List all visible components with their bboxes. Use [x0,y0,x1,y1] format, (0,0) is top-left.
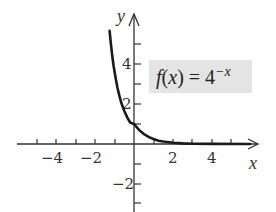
y-tick-label-4: 4 [122,55,132,73]
x-tick-label-4: 4 [207,149,217,167]
function-graph: f(x) = 4−x −4 −2 2 4 4 2 −2 [0,0,276,212]
x-axis-label: x [248,153,257,173]
y-tick-label-neg2: −2 [112,175,134,193]
x-tick-label-2: 2 [168,149,178,167]
x-tick-label-neg2: −2 [80,149,102,167]
y-axis-label: y [115,6,125,26]
x-tick-label-neg4: −4 [41,149,63,167]
